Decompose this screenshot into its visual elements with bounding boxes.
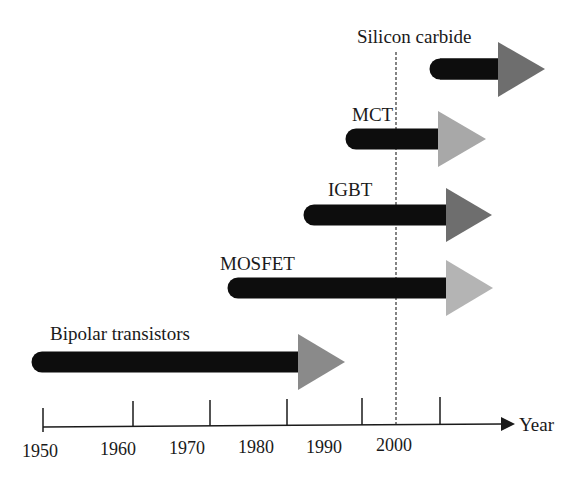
tick-label-1970: 1970 <box>169 438 205 458</box>
arrowhead-icon <box>498 42 545 97</box>
arrowhead-icon <box>438 111 486 167</box>
arrowhead-icon <box>446 188 492 242</box>
arrowhead-icon <box>298 334 345 390</box>
tick-label-1960: 1960 <box>100 439 136 459</box>
axis-label-year: Year <box>519 414 555 435</box>
tick-label-1950: 1950 <box>22 441 58 461</box>
label-silicon-carbide: Silicon carbide <box>357 26 472 47</box>
year-axis <box>43 397 515 432</box>
label-bipolar-transistors: Bipolar transistors <box>50 323 190 344</box>
tick-label-2000: 2000 <box>376 435 412 455</box>
axis-arrow-icon <box>501 417 515 431</box>
label-mct: MCT <box>352 104 394 125</box>
arrowhead-icon <box>446 260 493 316</box>
tick-label-1990: 1990 <box>306 437 342 457</box>
label-igbt: IGBT <box>328 179 373 200</box>
label-mosfet: MOSFET <box>220 253 295 274</box>
arrow-silicon-carbide <box>440 42 545 97</box>
timeline-diagram: Silicon carbide MCT IGBT MOSFET Bipolar … <box>0 0 583 482</box>
tick-label-1980: 1980 <box>238 437 274 457</box>
